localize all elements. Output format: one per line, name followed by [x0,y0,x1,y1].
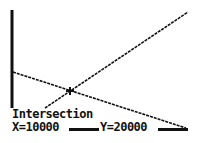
y-value: Y=20000 [100,121,147,133]
x-axis-segment [158,128,188,131]
x-value: X=10000 [12,121,59,133]
calculator-screen: Intersection X=10000 Y=20000 [0,0,200,143]
increasing-line [45,12,188,108]
x-axis-segment [69,128,99,131]
intersection-label: Intersection [12,108,93,120]
